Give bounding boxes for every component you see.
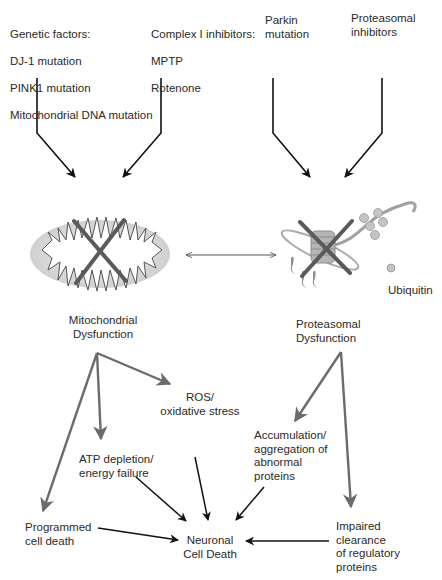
- complex1-block: Complex I inhibitors: MPTP Rotenone: [151, 14, 255, 109]
- proteasome-icon: [278, 203, 415, 288]
- accumulation-label: Accumulation/ aggregation of abnormal pr…: [254, 429, 328, 483]
- impaired-clearance-label: Impaired clearance of regulatory protein…: [336, 520, 400, 574]
- genetic-item: PINK1 mutation: [10, 82, 153, 96]
- parkin-label: Parkin mutation: [265, 14, 309, 41]
- genetic-item: Mitochondrial DNA mutation: [10, 109, 153, 123]
- mitochondrion-icon: [30, 217, 170, 291]
- arrow-parkin-to-proteasome: [273, 78, 310, 177]
- neuronal-cell-death-label: Neuronal Cell Death: [178, 534, 242, 561]
- arrow-inhibitors-to-proteasome: [345, 78, 382, 177]
- ubiquitin-label: Ubiquitin: [388, 284, 433, 298]
- proteasomal-inhibitors-label: Proteasomal inhibitors: [351, 12, 416, 39]
- proteasomal-dysfunction-label: Proteasomal Dysfunction: [296, 318, 378, 345]
- complex1-item: Rotenone: [151, 82, 255, 96]
- block-cross-icon: [300, 221, 352, 276]
- arrow-proteasome-to-impaired: [341, 352, 351, 507]
- genetic-item: DJ-1 mutation: [10, 55, 153, 69]
- mito-branch-arrows: [43, 353, 170, 511]
- arrow-ros-to-death: [195, 457, 208, 520]
- genetic-factors-title: Genetic factors:: [10, 28, 153, 42]
- atp-label: ATP depletion/ energy failure: [79, 453, 153, 480]
- arrow-programmed-to-death: [98, 528, 178, 540]
- arrow-atp-to-death: [136, 477, 186, 521]
- arrow-mito-to-atp: [97, 353, 101, 439]
- arrow-accumulation-to-death: [236, 487, 264, 520]
- genetic-factors-block: Genetic factors: DJ-1 mutation PINK1 mut…: [10, 14, 153, 136]
- mitochondrial-dysfunction-label: Mitochondrial Dysfunction: [55, 314, 151, 341]
- arrow-mito-to-ros: [97, 353, 170, 384]
- programmed-cell-death-label: Programmed cell death: [25, 521, 91, 548]
- ros-label: ROS/ oxidative stress: [150, 391, 250, 418]
- complex1-title: Complex I inhibitors:: [151, 28, 255, 42]
- arrow-proteasome-to-accumulation: [295, 352, 341, 421]
- ubiquitin-bead: [387, 264, 395, 272]
- arrow-mito-to-programmed: [43, 353, 97, 511]
- complex1-item: MPTP: [151, 55, 255, 69]
